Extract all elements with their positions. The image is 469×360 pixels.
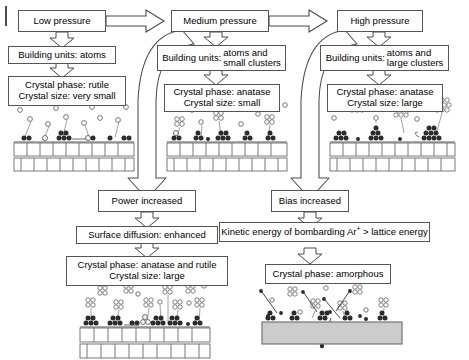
connector-high-units-to-crystal	[367, 70, 391, 85]
bias-increased-growth-illustration	[259, 285, 402, 348]
process-flow-diagram: Low pressure Building units: atoms Cryst…	[0, 0, 469, 360]
box-low-building-units: Building units: atoms	[8, 46, 116, 64]
low-pressure-growth-illustration	[14, 98, 134, 171]
medium-building-units-lead: Building units:	[162, 53, 223, 64]
box-power-crystal: Crystal phase: anatase and rutile Crysta…	[66, 256, 228, 286]
kinetic-energy-pre: Kinetic energy of bombarding Ar	[221, 226, 356, 237]
low-pressure-title: Low pressure	[33, 16, 90, 27]
low-crystal-size: Crystal size: very small	[18, 91, 115, 102]
high-pressure-title: High pressure	[350, 16, 409, 27]
box-medium-pressure-header: Medium pressure	[171, 10, 269, 32]
box-high-crystal: Crystal phase: anatase Crystal size: lar…	[327, 84, 443, 112]
medium-crystal-size: Crystal size: small	[184, 98, 261, 109]
box-power-increased-header: Power increased	[98, 190, 196, 212]
kinetic-energy-text: Kinetic energy of bombarding Ar+ > latti…	[221, 227, 428, 238]
box-bias-crystal: Crystal phase: amorphous	[265, 264, 391, 284]
box-medium-building-units: Building units: atoms and small clusters	[157, 45, 286, 71]
connector-kinetic-to-crystal	[298, 248, 322, 264]
medium-building-units-line2: small clusters	[223, 58, 281, 68]
box-high-building-units: Building units: atoms and large clusters	[320, 45, 449, 71]
power-increased-title: Power increased	[112, 196, 183, 207]
box-kinetic-energy: Kinetic energy of bombarding Ar+ > latti…	[219, 222, 430, 242]
box-low-pressure-header: Low pressure	[18, 10, 106, 32]
kinetic-energy-post: > lattice energy	[360, 226, 427, 237]
arrow-medium-to-high	[269, 10, 327, 32]
bias-crystal-phase: Crystal phase: amorphous	[273, 269, 384, 280]
box-low-crystal: Crystal phase: rutile Crystal size: very…	[8, 76, 126, 106]
power-crystal-size: Crystal size: large	[109, 271, 185, 282]
bias-increased-title: Bias increased	[279, 196, 341, 207]
high-building-units-lead: Building units:	[326, 53, 387, 64]
box-surface-diffusion: Surface diffusion: enhanced	[76, 226, 218, 244]
box-high-pressure-header: High pressure	[337, 10, 423, 32]
amorphous-substrate	[262, 322, 402, 344]
box-bias-increased-header: Bias increased	[271, 190, 349, 212]
connector-medium-units-to-crystal	[204, 70, 228, 85]
surface-diffusion-text: Surface diffusion: enhanced	[88, 230, 206, 241]
box-medium-crystal: Crystal phase: anatase Crystal size: sma…	[164, 84, 280, 112]
high-crystal-size: Crystal size: large	[347, 98, 423, 109]
ar-ion-trajectory	[262, 292, 349, 318]
medium-pressure-title: Medium pressure	[183, 16, 256, 27]
page-margin-tick	[5, 6, 7, 26]
high-building-units-line2: large clusters	[387, 58, 444, 68]
arrow-low-to-medium	[106, 10, 164, 32]
low-building-units-text: Building units: atoms	[18, 50, 106, 61]
